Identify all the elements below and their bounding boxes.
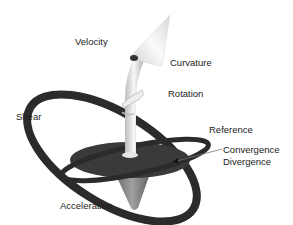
label-divergence: Divergence [223, 156, 271, 167]
flow-kinematics-diagram: Velocity Curvature Rotation Shear Refere… [0, 0, 293, 225]
shaft-base [122, 152, 138, 158]
label-reference: Reference [209, 124, 253, 135]
label-velocity: Velocity [75, 36, 108, 47]
diagram-graphic [0, 0, 293, 225]
label-shear: Shear [16, 111, 41, 122]
label-rotation: Rotation [168, 88, 203, 99]
label-acceleration: Acceleration [60, 200, 112, 211]
arrow-head-opening [130, 55, 138, 61]
label-curvature: Curvature [170, 57, 212, 68]
label-convergence: Convergence [223, 144, 280, 155]
